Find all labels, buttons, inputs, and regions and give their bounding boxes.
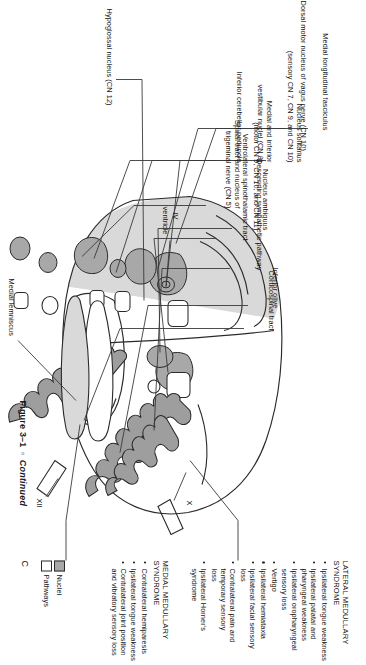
bullet-line: syndrome (190, 568, 199, 660)
bullet-item: Contralateral hemiparesis (140, 560, 149, 664)
bullet-dot (122, 561, 124, 563)
lateral-syndrome-heading-2: SYNDROME (331, 560, 340, 660)
bullet-line: Ipsilateral oropharyngeal (289, 568, 298, 660)
bullet-line: Ipsilateral tongue weakness (320, 568, 329, 660)
label-trigeminal-tract-sub: trigeminal nerve (CN 5) (224, 88, 233, 208)
bullet-dot (324, 561, 326, 563)
bullet-item: Ipsilateral facial sensory loss (239, 560, 257, 660)
bullet-item: Contralateral joint position and vibrato… (109, 560, 127, 664)
label-nerve-x: X (185, 500, 194, 505)
caption-separator-icon: ▫ (18, 451, 28, 454)
label-nucleus-solitarius: Nucleus solitarius (295, 30, 304, 162)
bullet-dot (262, 561, 264, 563)
bullet-line: Ipsilateral tongue weakness (129, 568, 138, 664)
label-iv-ventricle-line2: ventricle (161, 206, 170, 234)
bullet-dot (232, 561, 234, 563)
figure-plate: Medial longitudinal fasciculus Dorsal mo… (0, 0, 366, 665)
bullet-line: Ipsilateral facial sensory (248, 568, 257, 660)
bullet-dot (313, 561, 315, 563)
bullet-line: loss (210, 568, 219, 660)
label-text-layer: Medial longitudinal fasciculus Dorsal mo… (0, 0, 366, 665)
bullet-line: Contralateral joint position (119, 568, 128, 664)
legend-swatch-nuclei (54, 560, 65, 571)
bullet-line: Ipsilateral palatal and (309, 568, 318, 660)
bullet-line: temporary sensory (219, 568, 228, 660)
legend-swatch-pathways (41, 560, 52, 571)
lateral-syndrome-bullets: Ipsilateral tongue weakness Ipsilateral … (190, 560, 329, 660)
bullet-item: Ipsilateral tongue weakness (320, 560, 329, 660)
bullet-line: loss (239, 568, 248, 660)
bullet-line: and vibratory sensory loss (109, 568, 118, 664)
bullet-item: Vertigo (269, 560, 278, 660)
bullet-dot (203, 561, 205, 563)
bullet-line: Ipsilateral hemiataxia (259, 568, 268, 660)
bullet-dot (144, 561, 146, 563)
bullet-dot (273, 561, 275, 563)
medial-medullary-syndrome-block: MEDIAL MEDULLARY SYNDROME Contralateral … (109, 560, 170, 664)
label-hypoglossal-nucleus: Hypoglossal nucleus (CN 12) (105, 8, 114, 148)
lateral-syndrome-heading-1: LATERAL MEDULLARY (341, 560, 350, 660)
bullet-line: sensory loss (280, 568, 289, 660)
medial-syndrome-bullets: Contralateral hemiparesis Ipsilateral to… (109, 560, 149, 664)
figure-caption: Figure 3–1 ▫ Continued (16, 400, 34, 506)
label-descending-sympathetic-pathway: Descending sympathetic pathway (255, 138, 264, 270)
bullet-line: Ipsilateral Horner's (199, 568, 208, 660)
bullet-dot (133, 561, 135, 563)
caption-continued: Continued (18, 459, 28, 505)
bullet-item: Ipsilateral tongue weakness (129, 560, 138, 664)
label-medial-lemniscus: Medial lemniscus (7, 278, 16, 378)
bullet-item: Ipsilateral hemiataxia (259, 560, 268, 660)
bullet-item: Ipsilateral palatal and pharyngeal weakn… (300, 560, 318, 660)
label-medial-longitudinal-fasciculus: Medial longitudinal fasciculus (321, 8, 330, 130)
label-nerve-xii: XII (35, 498, 44, 507)
bullet-line: Vertigo (269, 568, 278, 660)
bullet-item: Ipsilateral Horner's syndrome (190, 560, 208, 660)
bullet-line: pharyngeal weakness (300, 568, 309, 660)
label-ventrolateral-spinothalamic-tract: Ventrolateral spinothalamic tract (241, 108, 250, 240)
label-iv-ventricle-line1: IV (171, 212, 180, 219)
panel-letter: C (20, 560, 30, 567)
bullet-dot (293, 561, 295, 563)
caption-number: Figure 3–1 (18, 400, 28, 447)
bullet-dot (252, 561, 254, 563)
bullet-line: Contralateral hemiparesis (140, 568, 149, 664)
bullet-item: Contralateral pain and temporary sensory… (210, 560, 238, 660)
label-corticospinal-tract: Corticospinal tract (267, 244, 276, 330)
lateral-medullary-syndrome-block: LATERAL MEDULLARY SYNDROME Ipsilateral t… (190, 560, 350, 660)
medial-syndrome-heading-1: MEDIAL MEDULLARY (161, 560, 170, 664)
legend-label-nuclei: Nuclei (55, 574, 64, 595)
medial-syndrome-heading-2: SYNDROME (151, 560, 160, 664)
bullet-item: Ipsilateral oropharyngeal sensory loss (280, 560, 298, 660)
label-nucleus-solitarius-sub: (sensory CN 7, CN 9, and CN 10) (286, 30, 295, 162)
legend-label-pathways: Pathways (42, 574, 51, 606)
bullet-line: Contralateral pain and (228, 568, 237, 660)
